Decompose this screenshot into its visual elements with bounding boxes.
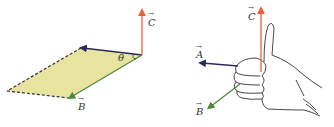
- vector-b-label-right: B: [195, 106, 203, 117]
- right-hand: [234, 23, 322, 116]
- left-panel: θ → C → B: [7, 10, 156, 112]
- vector-c-label-right: C: [248, 11, 256, 22]
- vector-b-right: [210, 84, 240, 107]
- vector-c-label-left: C: [148, 17, 156, 28]
- vector-b-label-left: B: [77, 101, 85, 112]
- vector-a-right: [202, 63, 238, 66]
- cross-product-diagram: θ → C → B → C → A → B: [0, 0, 334, 127]
- vector-a-label-right: A: [195, 49, 203, 60]
- diagram-svg: θ → C → B → C → A → B: [0, 0, 334, 127]
- theta-label: θ: [118, 52, 124, 63]
- right-panel: → C → A → B: [195, 4, 322, 117]
